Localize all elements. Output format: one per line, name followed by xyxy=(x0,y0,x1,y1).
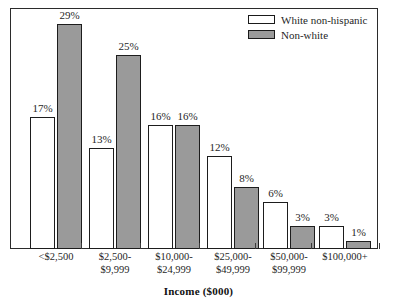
bar: 8% xyxy=(234,187,259,249)
bar-chart-figure: 17%29%13%25%16%16%12%8%6%3%3%1% White no… xyxy=(0,0,397,307)
bar: 6% xyxy=(263,202,288,249)
bar-group: 12%8% xyxy=(207,8,259,249)
bar: 13% xyxy=(89,148,114,249)
bar-value-label: 13% xyxy=(91,133,111,145)
axis-tick xyxy=(81,243,82,249)
legend-item-non-white: Non-white xyxy=(248,27,370,42)
axis-tick xyxy=(379,243,380,249)
bar-group: 13%25% xyxy=(89,8,141,249)
legend-item-white-non-hispanic: White non-hispanic xyxy=(248,12,370,27)
bar: 16% xyxy=(148,125,173,249)
legend-swatch-non-white xyxy=(248,30,275,39)
bar-value-label: 17% xyxy=(32,102,52,114)
x-axis-label-line: $99,999 xyxy=(241,264,337,277)
axis-tick xyxy=(140,243,141,249)
axis-tick xyxy=(255,243,256,249)
bar-group: 17%29% xyxy=(30,8,82,249)
bar-value-label: 16% xyxy=(150,110,170,122)
bar-value-label: 1% xyxy=(351,226,366,238)
bar: 12% xyxy=(207,156,232,249)
chart-legend: White non-hispanic Non-white xyxy=(248,12,370,42)
legend-label-white-non-hispanic: White non-hispanic xyxy=(281,14,367,26)
legend-swatch-white-non-hispanic xyxy=(248,15,275,24)
bar: 3% xyxy=(319,226,344,249)
bar-value-label: 3% xyxy=(324,211,339,223)
bar-group: 16%16% xyxy=(148,8,200,249)
bar-value-label: 16% xyxy=(177,110,197,122)
bars-layer: 17%29%13%25%16%16%12%8%6%3%3%1% xyxy=(10,8,378,249)
bar-value-label: 25% xyxy=(118,40,138,52)
x-axis-labels: <$2,500$2,500-$9,999$10,000-$24,999$25,0… xyxy=(10,251,378,285)
bar: 16% xyxy=(175,125,200,249)
bar-value-label: 6% xyxy=(268,187,283,199)
bar-value-label: 8% xyxy=(239,172,254,184)
x-axis-title: Income ($000) xyxy=(0,285,397,297)
bar-group: 6%3% xyxy=(263,8,315,249)
x-axis-label-line: $100,000+ xyxy=(297,251,393,264)
bar-group: 3%1% xyxy=(319,8,371,249)
legend-label-non-white: Non-white xyxy=(281,29,328,41)
bar-value-label: 12% xyxy=(209,141,229,153)
bar: 17% xyxy=(30,117,55,249)
bar: 1% xyxy=(346,241,371,249)
axis-tick xyxy=(199,243,200,249)
bar: 25% xyxy=(116,55,141,249)
bar: 29% xyxy=(57,24,82,249)
bar-value-label: 3% xyxy=(295,211,310,223)
bar-value-label: 29% xyxy=(59,9,79,21)
x-axis-label: $100,000+ xyxy=(297,251,393,264)
axis-tick xyxy=(311,243,312,249)
